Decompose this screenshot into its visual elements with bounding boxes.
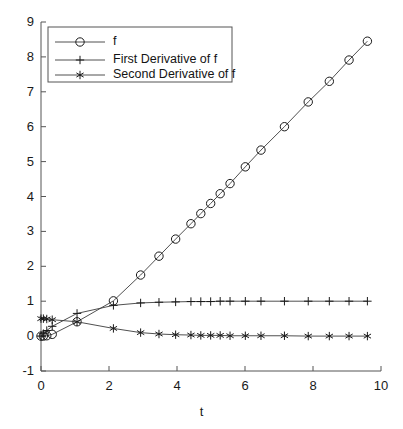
x-tick-label: 4	[165, 379, 189, 392]
x-tick-label: 10	[369, 379, 393, 392]
x-tick-label: 6	[233, 379, 257, 392]
y-tick-label: 6	[12, 120, 34, 133]
x-axis-ticks	[41, 366, 381, 371]
y-tick-label: 1	[12, 294, 34, 307]
y-tick-label: 7	[12, 85, 34, 98]
legend-entry-label: f	[113, 35, 116, 48]
figure-canvas: -10123456789 0246810 fFirst Derivative o…	[0, 0, 403, 429]
series-2	[37, 314, 371, 340]
y-tick-label: 5	[12, 155, 34, 168]
y-tick-label: -1	[12, 364, 34, 377]
x-tick-label: 2	[97, 379, 121, 392]
legend-entry-label: First Derivative of f	[113, 53, 217, 66]
y-tick-label: 0	[12, 329, 34, 342]
x-tick-label: 8	[301, 379, 325, 392]
x-axis-title: t	[0, 404, 403, 419]
y-tick-label: 3	[12, 224, 34, 237]
y-tick-label: 2	[12, 259, 34, 272]
legend-entry-label: Second Derivative of f	[113, 68, 235, 81]
y-tick-label: 8	[12, 50, 34, 63]
y-tick-label: 4	[12, 190, 34, 203]
x-tick-label: 0	[29, 379, 53, 392]
y-tick-label: 9	[12, 15, 34, 28]
